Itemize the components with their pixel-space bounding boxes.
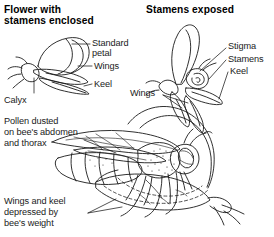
label-wings-left: Wings — [94, 61, 119, 72]
label-calyx: Calyx — [4, 95, 26, 106]
right-flower-drawing — [146, 25, 222, 133]
right-panel-title: Stamens exposed — [146, 4, 234, 16]
left-flower-drawing — [8, 38, 89, 95]
label-keel-left: Keel — [94, 79, 112, 90]
label-standard-petal-line2: petal — [92, 48, 111, 59]
label-pollen-line2: on bee's abdomen — [4, 127, 78, 138]
label-depressed-line3: bee's weight — [4, 218, 54, 229]
left-panel-title-line1: Flower with — [4, 4, 61, 16]
label-keel-right: Keel — [230, 66, 248, 77]
left-leader-lines — [34, 44, 92, 93]
label-depressed-line2: depressed by — [4, 207, 58, 218]
label-pollen-line3: and thorax — [4, 138, 46, 149]
bee-on-flower-drawing — [52, 106, 244, 225]
right-leader-lines — [163, 48, 228, 108]
label-wings-right: Wings — [130, 88, 155, 99]
label-stamens: Stamens — [228, 54, 264, 65]
label-pollen-line1: Pollen dusted — [4, 116, 58, 127]
left-panel-title-line2: stamens enclosed — [4, 15, 94, 27]
lower-leader-lines — [84, 140, 122, 213]
figure-canvas: Flower with stamens enclosed Stamens exp… — [0, 0, 274, 237]
label-depressed-line1: Wings and keel — [4, 196, 65, 207]
label-stigma: Stigma — [228, 41, 256, 52]
label-standard-petal-line1: Standard — [92, 38, 129, 49]
